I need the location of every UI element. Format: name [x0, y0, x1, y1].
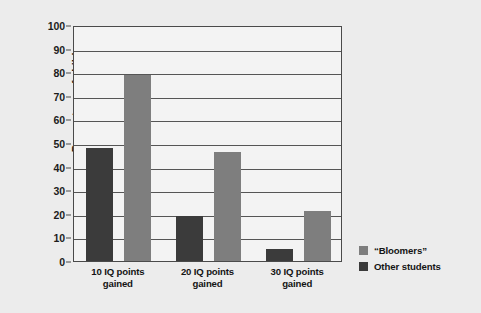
gridline-50 [74, 145, 341, 146]
gridline-70 [74, 98, 341, 99]
legend-item: Other students [359, 259, 441, 273]
legend-item: “Bloomers” [359, 243, 441, 257]
y-tick-label-90: 90 [54, 44, 65, 56]
y-tick-label-20: 20 [54, 209, 65, 221]
y-axis-tick-labels: 0102030405060708090100 [40, 26, 71, 262]
y-tick-mark-20 [66, 214, 71, 215]
y-tick-label-100: 100 [48, 20, 65, 32]
y-tick-mark-80 [66, 73, 71, 74]
bar [86, 148, 113, 261]
bar [304, 211, 331, 261]
gridline-80 [74, 74, 341, 75]
plot-area [73, 26, 342, 262]
x-tick-label: 10 IQ pointsgained [73, 266, 163, 291]
x-tick-label-line: gained [163, 278, 253, 290]
y-tick-mark-90 [66, 49, 71, 50]
legend-swatch-icon [359, 246, 368, 255]
y-tick-mark-30 [66, 191, 71, 192]
y-tick-label-40: 40 [54, 162, 65, 174]
legend: “Bloomers”Other students [359, 243, 441, 275]
legend-label: “Bloomers” [374, 245, 427, 256]
x-tick-label: 30 IQ pointsgained [252, 266, 342, 291]
x-tick-label: 20 IQ pointsgained [163, 266, 253, 291]
gridline-30 [74, 192, 341, 193]
x-tick-label-line: gained [73, 278, 163, 290]
x-tick-label-line: 10 IQ points [73, 266, 163, 278]
chart-figure: Percentage of children 01020304050607080… [0, 0, 481, 313]
y-tick-label-80: 80 [54, 67, 65, 79]
bar [266, 249, 293, 261]
gridline-60 [74, 121, 341, 122]
gridline-90 [74, 51, 341, 52]
y-tick-label-50: 50 [54, 138, 65, 150]
x-tick-label-line: 20 IQ points [163, 266, 253, 278]
y-tick-mark-40 [66, 167, 71, 168]
bar [214, 152, 241, 261]
y-tick-mark-60 [66, 120, 71, 121]
y-tick-mark-100 [66, 26, 71, 27]
y-tick-mark-10 [66, 238, 71, 239]
x-tick-label-line: gained [252, 278, 342, 290]
y-tick-label-30: 30 [54, 185, 65, 197]
y-tick-label-0: 0 [59, 256, 65, 268]
gridline-40 [74, 169, 341, 170]
gridline-20 [74, 216, 341, 217]
gridline-10 [74, 239, 341, 240]
legend-swatch-icon [359, 262, 368, 271]
x-tick-label-line: 30 IQ points [252, 266, 342, 278]
y-tick-mark-0 [66, 262, 71, 263]
y-tick-mark-70 [66, 96, 71, 97]
y-tick-mark-50 [66, 144, 71, 145]
y-tick-label-60: 60 [54, 114, 65, 126]
y-tick-label-10: 10 [54, 232, 65, 244]
y-tick-label-70: 70 [54, 91, 65, 103]
legend-label: Other students [374, 261, 441, 272]
bar [124, 75, 151, 261]
bar [176, 216, 203, 261]
